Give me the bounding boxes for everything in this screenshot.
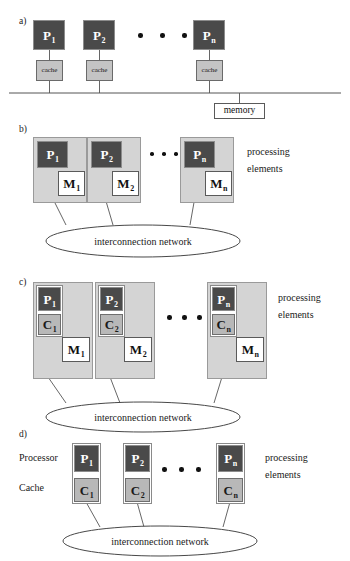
d-pe2-to-network bbox=[137, 502, 144, 527]
panel-a-cache-2: cache bbox=[86, 60, 113, 81]
panel-d-processor-2-sub: 2 bbox=[140, 459, 144, 468]
d-pe1-to-network bbox=[86, 502, 100, 527]
panel-b-letter: b) bbox=[19, 124, 27, 134]
panel-a-letter: a) bbox=[19, 16, 26, 26]
panel-c-processor-2-sub: 2 bbox=[114, 300, 118, 309]
panel-c-processor-n-label: Pn bbox=[217, 293, 229, 306]
c-pen-to-network bbox=[214, 377, 222, 403]
panel-c-processor-1-sub: 1 bbox=[52, 300, 56, 309]
panel-b-network-label: interconnection network bbox=[73, 236, 213, 247]
panel-b-memory-1: M1 bbox=[58, 171, 85, 196]
panel-c-memory-n-label: Mn bbox=[242, 343, 259, 356]
panel-a-processor-2-sub: 2 bbox=[101, 36, 105, 45]
panel-d-processor-n-label: Pn bbox=[224, 452, 236, 465]
panel-a-processor-n-sub: n bbox=[211, 36, 215, 45]
panel-c-side-label-line2: elements bbox=[278, 309, 314, 320]
panel-c-network-label: interconnection network bbox=[73, 412, 213, 423]
panel-a-ellipsis-dot-1 bbox=[138, 33, 143, 38]
panel-b-memory-2: M2 bbox=[112, 171, 139, 196]
c-pe2-to-network bbox=[110, 377, 120, 403]
panel-c-processor-2-label: P2 bbox=[106, 293, 118, 306]
panel-a-processor-2: P2 bbox=[83, 20, 115, 50]
panel-a-processor-1-sub: 1 bbox=[51, 36, 55, 45]
panel-d-processor-2-label: P2 bbox=[132, 452, 144, 465]
panel-a-cache-1: cache bbox=[36, 60, 63, 81]
panel-a-processor-1: P1 bbox=[33, 20, 65, 50]
panel-d-processor-1-label: P1 bbox=[81, 452, 93, 465]
panel-b-ellipsis-dot-1 bbox=[150, 152, 154, 156]
panel-a-ellipsis-dot-3 bbox=[182, 33, 187, 38]
d-pen-to-network bbox=[223, 502, 230, 527]
panel-d-side-label-line2: elements bbox=[265, 469, 301, 480]
panel-d-cache-n: Cn bbox=[218, 478, 243, 502]
panel-d-letter: d) bbox=[19, 429, 27, 439]
panel-c-cache-2-sub: 2 bbox=[115, 325, 119, 334]
panel-c-memory-2: M2 bbox=[124, 337, 152, 362]
panel-b-processor-2-sub: 2 bbox=[109, 155, 113, 164]
panel-d-processor-n: Pn bbox=[218, 445, 243, 472]
panel-d-ellipsis-dot-1 bbox=[162, 467, 167, 472]
panel-d-cache-n-label: Cn bbox=[224, 484, 238, 497]
c-pe1-to-network bbox=[48, 377, 66, 403]
panel-c-processor-n-sub: n bbox=[226, 300, 230, 309]
panel-b-processor-2: P2 bbox=[91, 141, 122, 168]
panel-d-cache-1-sub: 1 bbox=[90, 491, 94, 500]
panel-a-ellipsis-dot-2 bbox=[160, 33, 165, 38]
panel-a-processor-2-label: P2 bbox=[93, 29, 105, 42]
panel-c-processor-n: Pn bbox=[212, 287, 235, 311]
panel-d-cache-2: C2 bbox=[125, 478, 150, 502]
panel-b-side-label-line1: processing bbox=[247, 146, 290, 157]
panel-c-side-label-line1: processing bbox=[278, 292, 321, 303]
panel-c-memory-2-label: M2 bbox=[130, 343, 146, 356]
panel-d-ellipsis-dot-3 bbox=[196, 467, 201, 472]
panel-b-side-label-line2: elements bbox=[247, 163, 283, 174]
panel-c-ellipsis-dot-3 bbox=[197, 315, 202, 320]
panel-d-ellipsis-dot-2 bbox=[179, 467, 184, 472]
panel-d-network-label: interconnection network bbox=[90, 536, 230, 547]
panel-d-cache-1: C1 bbox=[74, 478, 99, 502]
panel-b-ellipsis-dot-3 bbox=[174, 152, 178, 156]
panel-d-cache-1-label: C1 bbox=[80, 484, 93, 497]
panel-d-row-label-processor: Processor bbox=[19, 452, 58, 463]
panel-c-memory-n-sub: n bbox=[254, 350, 258, 359]
panel-c-cache-n-sub: n bbox=[226, 325, 230, 334]
panel-c-cache-1-label: C1 bbox=[43, 318, 56, 331]
panel-d-processor-1-sub: 1 bbox=[89, 459, 93, 468]
panel-d-processor-1: P1 bbox=[74, 445, 99, 472]
panel-a-cache-n: cache bbox=[196, 60, 223, 81]
panel-c-letter: c) bbox=[19, 277, 26, 287]
panel-c-cache-1: C1 bbox=[38, 314, 61, 335]
panel-b-memory-n: Mn bbox=[205, 171, 232, 196]
panel-b-memory-1-sub: 1 bbox=[76, 184, 80, 193]
panel-c-cache-2: C2 bbox=[100, 314, 123, 335]
panel-c-memory-2-sub: 2 bbox=[143, 350, 147, 359]
panel-b-memory-2-label: M2 bbox=[117, 177, 133, 190]
panel-c-memory-1-sub: 1 bbox=[81, 350, 85, 359]
panel-b-processor-n-sub: n bbox=[202, 155, 206, 164]
panel-d-cache-2-label: C2 bbox=[131, 484, 144, 497]
figure-root: a) P1 P2 Pn cache cache cache memory b) … bbox=[0, 0, 350, 561]
panel-c-memory-1: M1 bbox=[62, 337, 90, 362]
panel-c-cache-1-sub: 1 bbox=[53, 325, 57, 334]
panel-d-cache-2-sub: 2 bbox=[141, 491, 145, 500]
panel-b-processor-1-sub: 1 bbox=[55, 155, 59, 164]
panel-c-processor-1-label: P1 bbox=[44, 293, 56, 306]
panel-c-memory-1-label: M1 bbox=[68, 343, 84, 356]
panel-b-memory-2-sub: 2 bbox=[130, 184, 134, 193]
panel-d-processor-2: P2 bbox=[125, 445, 150, 472]
panel-b-processor-1: P1 bbox=[37, 141, 68, 168]
panel-a-processor-n: Pn bbox=[193, 20, 225, 50]
panel-d-side-label-line1: processing bbox=[265, 452, 308, 463]
panel-a-processor-1-label: P1 bbox=[43, 29, 55, 42]
panel-b-processor-n-label: Pn bbox=[193, 148, 205, 161]
panel-b-processor-1-label: P1 bbox=[47, 148, 59, 161]
panel-c-ellipsis-dot-2 bbox=[182, 315, 187, 320]
panel-b-memory-1-label: M1 bbox=[63, 177, 79, 190]
panel-c-memory-n: Mn bbox=[236, 337, 264, 362]
panel-b-ellipsis-dot-2 bbox=[162, 152, 166, 156]
panel-a-processor-n-label: Pn bbox=[203, 29, 215, 42]
panel-c-ellipsis-dot-1 bbox=[167, 315, 172, 320]
panel-c-processor-2: P2 bbox=[100, 287, 123, 311]
panel-d-row-label-cache: Cache bbox=[19, 482, 44, 493]
panel-b-processor-2-label: P2 bbox=[101, 148, 113, 161]
